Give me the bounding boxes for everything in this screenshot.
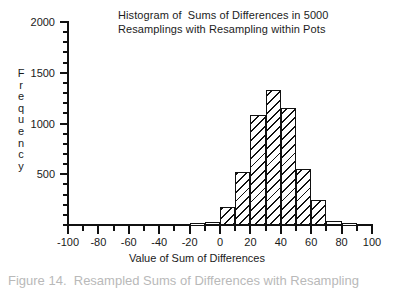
histogram-bar xyxy=(266,90,281,225)
histogram-bar xyxy=(220,207,235,225)
histogram-bar xyxy=(190,223,205,226)
histogram-bars xyxy=(0,0,394,289)
histogram-figure: Histogram of Sums of Differences in 5000… xyxy=(0,0,394,289)
histogram-bar xyxy=(281,108,296,225)
caption-remnant: Figure 14. Resampled Sums of Differences… xyxy=(0,276,394,289)
histogram-bar xyxy=(205,222,220,225)
histogram-bar xyxy=(296,169,311,225)
x-axis-title: Value of Sum of Differences xyxy=(0,252,394,264)
histogram-bar xyxy=(326,221,341,225)
histogram-bar xyxy=(342,223,357,226)
histogram-bar xyxy=(311,200,326,225)
histogram-bar xyxy=(250,115,265,225)
caption-remnant-text: Figure 14. Resampled Sums of Differences… xyxy=(8,276,359,288)
histogram-bar xyxy=(235,172,250,225)
